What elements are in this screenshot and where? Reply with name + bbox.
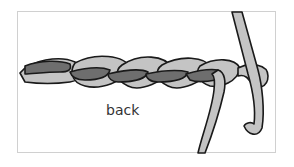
back-label: back	[106, 102, 139, 118]
chain-illustration	[0, 0, 294, 167]
dark-strand	[25, 61, 71, 74]
crochet-chain-diagram: back	[0, 0, 294, 167]
